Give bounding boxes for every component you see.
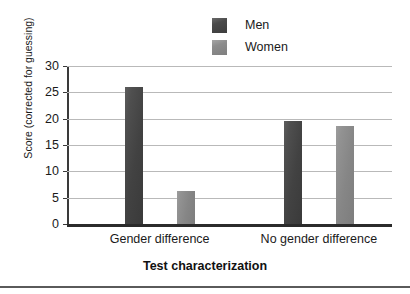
chart-legend: Men Women [212, 14, 352, 58]
legend-item-women: Women [212, 36, 352, 58]
x-axis-category-label: No gender difference [261, 232, 378, 246]
y-axis-tick-label: 25 [45, 85, 59, 99]
bar-men-gender-difference [125, 87, 143, 224]
y-axis-tick-label: 5 [52, 191, 59, 205]
legend-label-men: Men [245, 18, 269, 32]
y-axis-title: Score (corrected for guessing) [22, 0, 34, 178]
legend-swatch-men-icon [212, 18, 227, 33]
bar-women-no-gender-difference [336, 126, 354, 224]
gridline [67, 92, 392, 93]
legend-label-women: Women [245, 40, 288, 54]
legend-item-men: Men [212, 14, 352, 36]
y-axis-tick-mark [63, 171, 67, 172]
y-axis-tick-mark [63, 119, 67, 120]
y-axis-tick-mark [63, 224, 67, 225]
y-axis-tick-label: 0 [52, 217, 59, 231]
x-axis-category-label: Gender difference [110, 232, 210, 246]
plot-area: 051015202530 [67, 66, 392, 224]
y-axis-tick-mark [63, 92, 67, 93]
gridline [67, 119, 392, 120]
gridline [67, 66, 392, 67]
legend-swatch-women-icon [212, 40, 227, 55]
y-axis-tick-label: 30 [45, 59, 59, 73]
x-axis-line [67, 224, 392, 227]
bar-men-no-gender-difference [284, 121, 302, 224]
bar-women-gender-difference [177, 191, 195, 224]
y-axis-tick-label: 15 [45, 138, 59, 152]
x-axis-title: Test characterization [0, 259, 410, 273]
y-axis-tick-label: 10 [45, 164, 59, 178]
bottom-divider [0, 286, 410, 288]
y-axis-tick-mark [63, 145, 67, 146]
y-axis-tick-label: 20 [45, 112, 59, 126]
y-axis-tick-mark [63, 66, 67, 67]
y-axis-tick-mark [63, 198, 67, 199]
